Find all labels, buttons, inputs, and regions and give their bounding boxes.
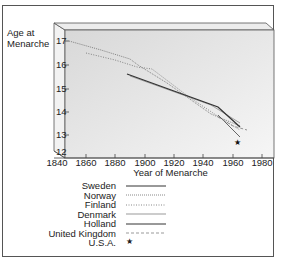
- legend-samples: [126, 186, 166, 233]
- panel-top-side: [54, 23, 274, 30]
- x-axis-label: Year of Menarche: [0, 167, 291, 178]
- y-tick-label: 13: [56, 129, 67, 140]
- y-tick-label: 12: [56, 146, 67, 157]
- legend-star-icon: ★: [126, 237, 133, 246]
- y-tick-label: 14: [56, 106, 67, 117]
- y-tick-label: 17: [56, 35, 67, 46]
- y-axis-label-line1: Age at: [7, 27, 49, 38]
- y-tick-label: 15: [56, 83, 67, 94]
- series-usa-star: ★: [234, 138, 241, 147]
- panel-face: [65, 30, 274, 158]
- y-axis-label: Age at Menarche: [7, 27, 49, 49]
- y-axis-label-line2: Menarche: [7, 38, 49, 49]
- legend-label-usa: U.S.A.: [0, 238, 116, 248]
- y-tick-label: 16: [56, 59, 67, 70]
